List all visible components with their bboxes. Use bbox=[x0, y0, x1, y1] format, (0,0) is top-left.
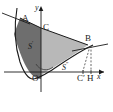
point-label-b: B bbox=[85, 34, 91, 43]
geometry-figure: A C B O C′ H y x S′ S″ bbox=[0, 0, 113, 112]
y-axis-arrow-icon bbox=[39, 6, 44, 11]
point-label-c: C bbox=[43, 23, 49, 32]
region-label-s-prime-sup: ′ bbox=[32, 40, 33, 46]
point-label-c-prime: C′ bbox=[77, 74, 85, 83]
point-label-o: O bbox=[32, 74, 39, 83]
x-axis-label: x bbox=[97, 73, 101, 81]
y-axis-label: y bbox=[35, 4, 39, 12]
region-label-s-double-prime-sup: ″ bbox=[66, 61, 69, 67]
point-label-a: A bbox=[22, 14, 29, 23]
region-label-s-prime: S′ bbox=[28, 40, 33, 51]
diagram-canvas bbox=[0, 0, 113, 112]
point-label-h: H bbox=[87, 74, 94, 83]
region-label-s-double-prime: S″ bbox=[62, 61, 69, 72]
prime-mark-icon: ′ bbox=[83, 73, 85, 83]
